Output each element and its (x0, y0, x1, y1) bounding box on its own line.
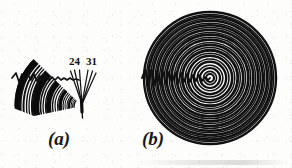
order-label-24: 24 (69, 55, 80, 67)
figure-root: 24 31 (0, 0, 292, 168)
order-label-31: 31 (86, 55, 97, 67)
panel-a-vertex-tail (82, 110, 83, 118)
panel-a: 24 31 (0, 0, 146, 168)
caption-panel-a: (a) (48, 128, 70, 150)
panel-a-diagram (0, 0, 146, 168)
caption-panel-b: (b) (142, 128, 164, 150)
panel-a-order-ticks (71, 70, 97, 104)
